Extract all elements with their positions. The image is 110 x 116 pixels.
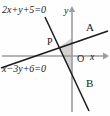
point-label-a: A [86,22,94,33]
x-axis-label: x [90,52,94,62]
math-figure: 2x+y+5=0 x−3y+6=0 P A B O x y [0,0,110,116]
equation-label-bottom: x−3y+6=0 [2,64,46,74]
equation-label-top: 2x+y+5=0 [2,5,46,15]
point-label-b: B [86,78,93,89]
point-label-p: P [47,37,53,47]
line-2x-plus-y-plus-5 [45,17,89,111]
y-axis-label: y [64,6,68,16]
origin-label: O [77,54,84,64]
